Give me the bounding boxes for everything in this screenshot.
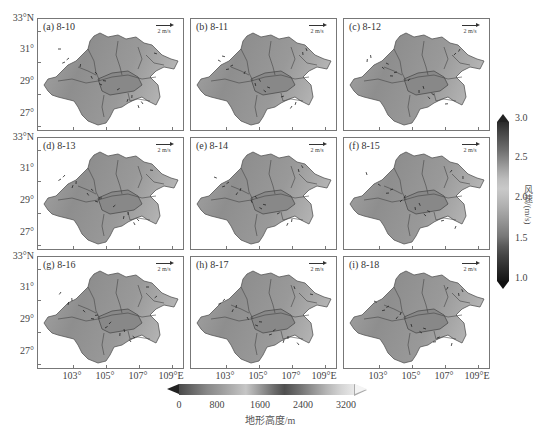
y-tick: [38, 62, 41, 63]
reference-vector-label: 2 m/s: [157, 266, 170, 272]
x-tick: [292, 365, 293, 368]
wind-vector-icon: [63, 175, 65, 177]
terrain-map: [191, 138, 337, 250]
y-tick: [38, 269, 41, 270]
x-tick: [379, 365, 380, 368]
reference-vector-label: 2 m/s: [157, 28, 170, 34]
wind-vector-icon: [366, 172, 367, 175]
colorbar-min-extend-arrow: [497, 281, 509, 289]
wind-vector-icon: [290, 106, 292, 109]
panel-label: (e) 8-14: [196, 140, 228, 151]
x-tick: [259, 365, 260, 368]
wind-vector-icon: [59, 292, 61, 294]
wind-vector-icon: [297, 343, 299, 345]
x-tick: [445, 246, 446, 249]
wind-colorbar-title: 风速/(m/s): [522, 185, 535, 225]
latitude-label: 33°N: [0, 12, 34, 23]
panel-label: (d) 8-13: [43, 140, 76, 151]
latitude-label: 27°: [0, 226, 34, 237]
reference-vector-key: 2 m/s: [153, 260, 175, 272]
x-tick: [292, 127, 293, 130]
arrow-right-icon: [153, 260, 175, 266]
terrain-map: [344, 138, 490, 250]
terrain-map: [191, 257, 337, 369]
longitude-label: 109°E: [151, 370, 191, 381]
wind-vector-icon: [223, 299, 225, 301]
map-panel: (b) 8-112 m/s: [190, 18, 337, 131]
terrain-colorbar-title: 地形高度/m: [215, 412, 325, 427]
map-panel: (a) 8-102 m/s: [37, 18, 184, 131]
latitude-label: 31°: [0, 162, 34, 173]
latitude-label: 31°: [0, 281, 34, 292]
x-tick: [478, 127, 479, 130]
arrow-right-icon: [306, 260, 328, 266]
panel-label: (i) 8-18: [349, 259, 379, 270]
reference-vector-label: 2 m/s: [463, 28, 476, 34]
y-tick: [38, 94, 41, 95]
x-tick: [73, 365, 74, 368]
x-tick: [139, 246, 140, 249]
reference-vector-key: 2 m/s: [459, 22, 481, 34]
x-tick: [139, 127, 140, 130]
reference-vector-label: 2 m/s: [310, 147, 323, 153]
y-tick: [38, 364, 41, 365]
wind-vector-icon: [295, 102, 296, 105]
x-tick: [478, 246, 479, 249]
map-panel: (c) 8-122 m/s: [343, 18, 490, 131]
panel-label: (h) 8-17: [196, 259, 229, 270]
wind-vector-icon: [67, 58, 69, 60]
latitude-label: 33°N: [0, 131, 34, 142]
map-panel: (h) 8-172 m/s: [190, 256, 337, 369]
y-tick: [38, 181, 41, 182]
terrain-tick-1600: 1600: [240, 399, 280, 410]
colorbar-max-extend-arrow: [497, 114, 509, 122]
wind-vector-icon: [214, 177, 217, 178]
terrain-map: [344, 19, 490, 131]
wind-vector-icon: [62, 62, 65, 63]
arrow-right-icon: [306, 141, 328, 147]
x-tick: [292, 246, 293, 249]
x-tick: [172, 246, 173, 249]
map-panel: (g) 8-162 m/s: [37, 256, 184, 369]
terrain-tick-800: 800: [197, 399, 237, 410]
wind-speed-colorbar: [497, 114, 509, 289]
map-panel: (i) 8-182 m/s: [343, 256, 490, 369]
longitude-label: 109°E: [457, 370, 497, 381]
x-tick: [106, 246, 107, 249]
x-tick: [259, 246, 260, 249]
x-tick: [172, 365, 173, 368]
y-tick: [38, 31, 41, 32]
y-tick: [38, 245, 41, 246]
wind-vector-icon: [58, 179, 61, 181]
wind-tick-3.0: 3.0: [515, 112, 528, 123]
wind-tick-1.0: 1.0: [515, 272, 528, 283]
wind-vector-icon: [451, 343, 452, 346]
reference-vector-key: 2 m/s: [153, 22, 175, 34]
reference-vector-key: 2 m/s: [306, 260, 328, 272]
wind-speed-colorbar-gradient: [497, 122, 509, 281]
x-tick: [226, 246, 227, 249]
x-tick: [139, 365, 140, 368]
latitude-label: 29°: [0, 75, 34, 86]
terrain-tick-2400: 2400: [283, 399, 323, 410]
terrain-tick-0: 0: [159, 399, 199, 410]
y-tick: [38, 332, 41, 333]
wind-tick-1.5: 1.5: [515, 232, 528, 243]
latitude-label: 31°: [0, 43, 34, 54]
x-tick: [412, 127, 413, 130]
wind-vector-icon: [218, 60, 221, 61]
y-tick: [38, 213, 41, 214]
wind-vector-icon: [441, 220, 444, 221]
x-tick: [73, 127, 74, 130]
terrain-map: [38, 257, 184, 369]
x-tick: [226, 127, 227, 130]
wind-vector-icon: [287, 223, 288, 226]
panel-label: (c) 8-12: [349, 21, 381, 32]
latitude-label: 27°: [0, 345, 34, 356]
reference-vector-label: 2 m/s: [310, 28, 323, 34]
map-panel: (e) 8-142 m/s: [190, 137, 337, 250]
wind-vector-icon: [222, 56, 225, 57]
colorbar-min-extend-arrow: [167, 384, 179, 394]
panel-label: (b) 8-11: [196, 21, 228, 32]
wind-vector-icon: [137, 219, 139, 221]
